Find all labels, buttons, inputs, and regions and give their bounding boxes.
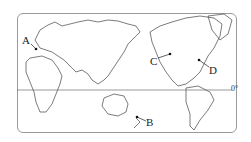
- equator-label: 0°: [231, 85, 238, 93]
- new-zealand-outline: [134, 118, 140, 128]
- label-c: C: [150, 56, 157, 67]
- australia-outline: [102, 94, 128, 116]
- label-d: D: [209, 65, 217, 76]
- label-a: A: [22, 35, 30, 46]
- leader-c: [158, 54, 170, 58]
- eurasia-outline: [35, 20, 140, 84]
- point-a: [35, 48, 38, 51]
- point-d: [198, 59, 201, 62]
- label-b: B: [146, 117, 153, 128]
- africa-outline: [26, 56, 62, 112]
- leader-d: [199, 60, 209, 67]
- point-b: [136, 116, 139, 119]
- south-america-outline: [186, 86, 214, 130]
- point-c: [169, 53, 172, 56]
